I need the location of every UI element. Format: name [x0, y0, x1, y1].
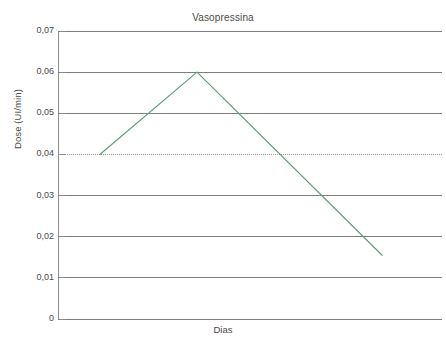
reference-line	[58, 154, 442, 155]
y-tick-label: 0,07	[16, 25, 54, 35]
x-axis-title: Dias	[0, 324, 446, 335]
gridline	[58, 195, 442, 196]
y-tick-mark	[60, 72, 65, 73]
y-tick-label: 0,02	[16, 231, 54, 241]
y-tick-label: 0,03	[16, 190, 54, 200]
y-tick-mark	[60, 195, 65, 196]
y-tick-mark	[60, 277, 65, 278]
y-tick-label: 0,05	[16, 107, 54, 117]
y-tick-mark	[60, 31, 65, 32]
gridline	[58, 72, 442, 73]
y-tick-mark	[60, 113, 65, 114]
gridline	[58, 277, 442, 278]
gridline	[58, 113, 442, 114]
y-tick-label: 0,01	[16, 272, 54, 282]
chart-figure: Vasopressina Dose (UI/min) Dias 0,070,06…	[0, 0, 446, 344]
gridline	[58, 319, 442, 320]
y-tick-mark	[60, 319, 65, 320]
data-series-line	[100, 72, 382, 255]
y-tick-mark	[60, 236, 65, 237]
y-tick-label: 0,06	[16, 66, 54, 76]
y-tick-label-layer: 0,070,060,050,040,030,020,010	[8, 0, 54, 344]
y-tick-label: 0	[16, 313, 54, 323]
gridline	[58, 236, 442, 237]
gridline	[58, 31, 442, 32]
data-series-layer	[0, 0, 446, 344]
chart-title: Vasopressina	[0, 12, 446, 23]
y-tick-mark	[60, 154, 65, 155]
y-tick-label: 0,04	[16, 148, 54, 158]
